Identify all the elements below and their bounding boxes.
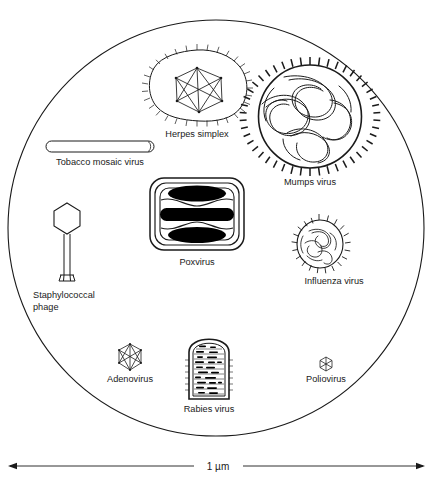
label-rabies-virus: Rabies virus bbox=[184, 404, 235, 414]
label-staphylococcal-phage-line2: phage bbox=[33, 302, 59, 312]
label-poliovirus: Poliovirus bbox=[306, 374, 346, 384]
label-staphylococcal-phage-line1: Staphylococcal bbox=[33, 290, 95, 300]
poxvirus-core-middle bbox=[160, 208, 234, 221]
label-herpes-simplex: Herpes simplex bbox=[165, 129, 229, 139]
figure-canvas: Herpes simplex Tobacco mosaic virus bbox=[0, 0, 433, 492]
figure-background bbox=[0, 0, 433, 492]
poxvirus-core-top bbox=[168, 186, 226, 202]
poxvirus-core-bottom bbox=[168, 227, 226, 243]
virus-size-comparison-figure: Herpes simplex Tobacco mosaic virus bbox=[0, 0, 433, 492]
label-influenza-virus: Influenza virus bbox=[304, 276, 364, 286]
scale-bar-label: 1 µm bbox=[207, 461, 229, 472]
label-tobacco-mosaic-virus: Tobacco mosaic virus bbox=[56, 157, 144, 167]
label-adenovirus: Adenovirus bbox=[107, 374, 153, 384]
label-poxvirus: Poxvirus bbox=[179, 257, 215, 267]
label-mumps-virus: Mumps virus bbox=[284, 177, 336, 187]
